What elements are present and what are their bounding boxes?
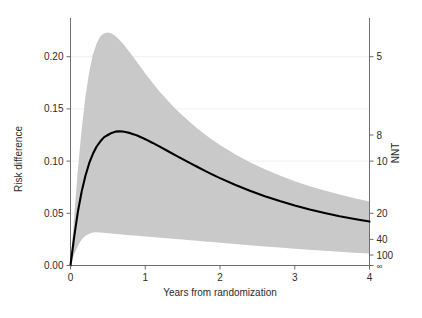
risk-difference-chart: 0.000.050.100.150.20 58102040100∞ 01234 … (0, 0, 422, 318)
y2-tick-label: 8 (377, 130, 383, 141)
x-tick-label: 4 (367, 272, 373, 283)
x-tick-label: 2 (217, 272, 223, 283)
y2-tick-label: 10 (377, 156, 389, 167)
y-tick-label: 0.05 (44, 208, 64, 219)
y-tick-label: 0.10 (44, 156, 64, 167)
y-tick-label: 0.20 (44, 51, 64, 62)
x-tick-label: 3 (292, 272, 298, 283)
y-tick-label: 0.00 (44, 260, 64, 271)
y-tick-label: 0.15 (44, 103, 64, 114)
x-tick-label: 1 (142, 272, 148, 283)
y2-axis-title: NNT (390, 143, 401, 164)
y2-tick-label: 40 (377, 234, 389, 245)
y2-tick-label: 20 (377, 208, 389, 219)
x-axis-title: Years from randomization (163, 287, 277, 298)
figure-container: 0.000.050.100.150.20 58102040100∞ 01234 … (0, 0, 422, 318)
y2-tick-label: ∞ (377, 262, 383, 271)
y-axis-title: Risk difference (13, 126, 24, 192)
y2-tick-label: 5 (377, 51, 383, 62)
y2-tick-label: 100 (377, 250, 394, 261)
x-tick-label: 0 (68, 272, 74, 283)
